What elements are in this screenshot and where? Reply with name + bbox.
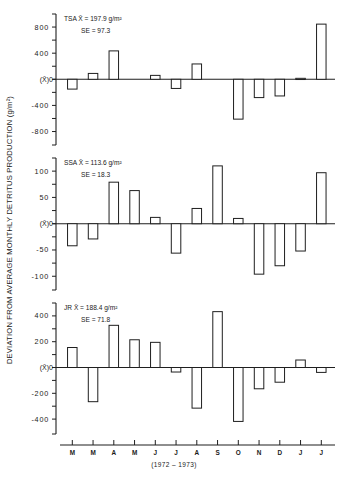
bar-ssa-12	[317, 173, 327, 224]
bar-tsa-11	[296, 78, 306, 79]
y-tick-label: 800	[35, 23, 49, 32]
y-axis-label-container: DEVIATION FROM AVERAGE MONTHLY DETRITUS …	[2, 80, 16, 380]
y-tick-label: -200	[31, 389, 49, 398]
bar-jr-12	[317, 368, 327, 373]
bar-tsa-9	[254, 79, 263, 97]
y-tick-label: 200	[35, 337, 49, 346]
bar-tsa-1	[88, 73, 98, 79]
y-tick-label: -50	[36, 245, 49, 254]
bar-tsa-2	[109, 51, 119, 79]
x-tick-label: M	[70, 449, 75, 456]
x-tick-label: J	[299, 449, 303, 456]
bar-ssa-11	[296, 224, 306, 251]
bar-jr-8	[234, 368, 244, 422]
x-tick-label: J	[154, 449, 158, 456]
bar-ssa-10	[275, 224, 285, 266]
bar-tsa-4	[151, 75, 161, 79]
bar-jr-5	[171, 368, 181, 373]
y-tick-label: -800	[31, 127, 49, 136]
zero-mean-label: (X̄)0	[40, 76, 53, 84]
bar-ssa-4	[151, 217, 161, 223]
bar-ssa-3	[130, 191, 140, 224]
bar-tsa-12	[317, 24, 327, 79]
bar-ssa-5	[171, 224, 181, 253]
y-tick-label: -400	[31, 415, 49, 424]
bar-ssa-7	[213, 166, 223, 224]
x-tick-label: J	[320, 449, 324, 456]
y-tick-label: 50	[39, 193, 49, 202]
y-tick-label: -100	[31, 272, 49, 281]
bar-ssa-6	[192, 208, 202, 223]
panel-ssa: 10050-50-100(X̄)0SSA X̄ = 113.6 g/m²SE =…	[31, 158, 335, 290]
bar-jr-11	[296, 360, 306, 367]
bar-jr-4	[151, 342, 161, 367]
y-axis-label: DEVIATION FROM AVERAGE MONTHLY DETRITUS …	[5, 96, 14, 364]
bar-jr-7	[213, 312, 223, 368]
bar-jr-6	[192, 368, 202, 409]
bar-jr-0	[68, 348, 78, 368]
bar-tsa-0	[68, 79, 78, 89]
panel-se-annotation: SE = 71.8	[81, 316, 110, 323]
y-tick-label: -400	[31, 101, 49, 110]
panel-mean-annotation: SSA X̄ = 113.6 g/m²	[64, 159, 122, 167]
panel-mean-annotation: TSA X̄ = 197.9 g/m²	[64, 15, 123, 23]
panel-se-annotation: SE = 18.3	[81, 171, 110, 178]
x-tick-label: S	[215, 449, 220, 456]
x-tick-label: A	[111, 449, 116, 456]
y-tick-label: 100	[35, 167, 49, 176]
x-tick-label: A	[194, 449, 199, 456]
zero-mean-label: (X̄)0	[40, 220, 53, 228]
x-tick-label: N	[257, 449, 262, 456]
bar-tsa-6	[192, 64, 202, 79]
bar-jr-10	[275, 368, 285, 383]
bar-ssa-0	[68, 224, 78, 246]
x-tick-label: O	[236, 449, 241, 456]
bar-tsa-10	[275, 79, 285, 96]
chart-canvas: 800400-400-800(X̄)0TSA X̄ = 197.9 g/m²SE…	[0, 0, 348, 484]
panel-jr: 400200-200-400(X̄)0JR X̄ = 188.4 g/m²SE …	[31, 303, 335, 434]
bar-tsa-5	[171, 79, 181, 88]
y-tick-label: 400	[35, 49, 49, 58]
x-tick-label: D	[277, 449, 282, 456]
panel-mean-annotation: JR X̄ = 188.4 g/m²	[64, 304, 118, 312]
x-tick-label: M	[132, 449, 137, 456]
bar-ssa-1	[88, 224, 98, 239]
bar-ssa-9	[254, 224, 263, 274]
bar-jr-1	[88, 368, 98, 402]
x-axis-caption: (1972 – 1973)	[0, 461, 348, 468]
x-tick-label: M	[90, 449, 95, 456]
bar-jr-3	[130, 340, 140, 368]
bar-jr-9	[254, 368, 263, 389]
bar-jr-2	[109, 325, 119, 367]
x-axis: MMAMJJASONDJJ	[60, 440, 335, 456]
x-tick-label: J	[174, 449, 178, 456]
panel-se-annotation: SE = 97.3	[81, 27, 110, 34]
y-tick-label: 400	[35, 311, 49, 320]
panel-tsa: 800400-400-800(X̄)0TSA X̄ = 197.9 g/m²SE…	[31, 14, 335, 145]
bar-tsa-8	[234, 79, 244, 119]
bar-ssa-8	[234, 218, 244, 223]
bar-ssa-2	[109, 182, 119, 224]
zero-mean-label: (X̄)0	[40, 364, 53, 372]
figure: 800400-400-800(X̄)0TSA X̄ = 197.9 g/m²SE…	[0, 0, 348, 484]
